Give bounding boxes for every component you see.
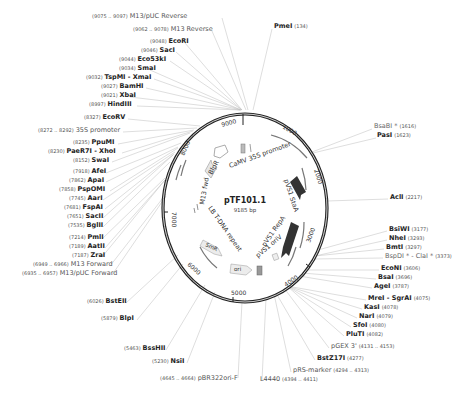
svg-text:7000: 7000	[171, 212, 178, 227]
restriction-site-label: (9032) TspMI - XmaI	[86, 73, 151, 81]
restriction-site-label: (7681) FspAI	[64, 203, 103, 211]
site-position: (6935 .. 6957)	[22, 270, 58, 276]
svg-text:1000: 1000	[282, 123, 299, 137]
site-name: PaeR7I - XhoI	[67, 147, 116, 155]
site-name: TspMI - XmaI	[105, 73, 152, 81]
site-name: M13 Reverse	[171, 25, 213, 33]
site-position: (9048)	[150, 38, 167, 44]
svg-text:CaMV 35S promoter: CaMV 35S promoter	[228, 140, 292, 170]
site-position: (3696)	[396, 274, 413, 280]
restriction-site-label: (9048) EcoRI	[150, 37, 189, 45]
restriction-site-label: (5463) BssHII	[124, 344, 166, 352]
restriction-site-label: SfoI (4080)	[353, 321, 386, 329]
site-name: BsiWI	[389, 225, 410, 233]
site-name: MreI - SgrAI	[368, 294, 412, 302]
site-position: (8997)	[89, 101, 106, 107]
site-name: FspAI	[83, 203, 103, 211]
svg-text:2000: 2000	[313, 168, 324, 185]
site-name: BssHII	[143, 344, 166, 352]
site-name: BsaBI *	[374, 122, 398, 130]
restriction-site-label: BmtI (3297)	[386, 243, 422, 251]
site-name: PluTI	[346, 330, 364, 338]
site-position: (5879)	[101, 315, 118, 321]
restriction-site-label: PmeI (134)	[274, 22, 308, 30]
feature-label: (6949 .. 6966) M13 Forward	[33, 260, 113, 268]
restriction-site-label: MreI - SgrAI (4075)	[368, 294, 430, 302]
site-name: SacI	[160, 46, 175, 54]
site-position: (4131 .. 4153)	[359, 343, 395, 349]
feature-label: (6935 .. 6957) M13/pUC Forward	[22, 269, 117, 277]
restriction-site-label: (7862) ApaI	[69, 176, 104, 184]
svg-text:BlpR: BlpR	[207, 159, 221, 176]
restriction-site-label: (8235) PpuMI	[73, 138, 115, 146]
site-name: BmtI	[386, 243, 403, 251]
site-name: EcoRI	[169, 37, 189, 45]
site-name: BspDI * - ClaI *	[385, 252, 433, 260]
site-name: AfeI	[92, 167, 107, 175]
site-name: BamHI	[120, 82, 144, 90]
site-position: (6026)	[87, 298, 104, 304]
svg-text:6000: 6000	[186, 261, 202, 277]
restriction-site-label: (8230) PaeR7I - XhoI	[48, 147, 116, 155]
site-position: (4079)	[376, 313, 393, 319]
site-name: M13/pUC Forward	[60, 269, 118, 277]
site-name: AclI	[390, 193, 404, 201]
site-name: Eco53kI	[138, 55, 167, 63]
restriction-site-label: (8327) EcoRV	[84, 113, 125, 121]
site-name: SmaI	[138, 64, 156, 72]
site-position: (3177)	[412, 226, 429, 232]
site-position: (4080)	[369, 322, 386, 328]
restriction-site-label: (7918) AfeI	[73, 167, 106, 175]
feature-label: L4440 (4394 .. 4411)	[260, 375, 318, 383]
restriction-site-label: (7745) AarI	[69, 194, 103, 202]
site-position: (7189)	[69, 243, 86, 249]
site-position: (3297)	[405, 244, 422, 250]
site-name: pRS-marker	[293, 366, 331, 374]
svg-text:3000: 3000	[304, 226, 316, 243]
site-position: (7862)	[69, 177, 86, 183]
site-position: (9034)	[119, 65, 136, 71]
restriction-site-label: BstZ17I (4277)	[317, 354, 364, 362]
site-name: PmeI	[274, 22, 292, 30]
site-name: NarI	[359, 312, 374, 320]
restriction-site-label: (7187) ZraI	[72, 251, 105, 259]
site-name: NheI	[389, 234, 406, 242]
site-name: PpuMI	[92, 138, 115, 146]
restriction-site-label: (5230) NsiI	[152, 357, 185, 365]
site-name: AatII	[88, 242, 105, 250]
restriction-site-label: NheI (3293)	[389, 234, 424, 242]
site-position: (4394 .. 4411)	[282, 376, 318, 382]
site-position: (7535)	[68, 222, 85, 228]
feature-label: pGEX 3' (4131 .. 4153)	[331, 342, 394, 350]
restriction-site-label: BsaI (3696)	[378, 273, 412, 281]
site-position: (2217)	[405, 194, 422, 200]
site-position: (7745)	[69, 195, 86, 201]
site-name: ApaI	[88, 176, 105, 184]
site-name: PmlI	[88, 233, 104, 241]
site-name: ZraI	[91, 251, 106, 259]
restriction-site-label: (9021) XbaI	[101, 91, 136, 99]
site-name: pGEX 3'	[331, 342, 357, 350]
site-name: SacII	[86, 212, 104, 220]
restriction-site-label: (9027) BamHI	[101, 82, 144, 90]
site-name: SfoI	[353, 321, 367, 329]
restriction-site-label: PluTI (4082)	[346, 330, 383, 338]
feature-label: (4645 .. 4664) pBR322ori-F	[160, 374, 238, 382]
site-name: L4440	[260, 375, 280, 383]
svg-text:M13 fwd: M13 fwd	[198, 177, 211, 206]
site-name: BstEII	[106, 297, 127, 305]
feature-label: (8272 .. 8292) 35S promoter	[38, 126, 120, 134]
feature-label: (9075 .. 9097) M13/pUC Reverse	[92, 12, 187, 20]
site-name: BlpI	[120, 314, 134, 322]
site-position: (7187)	[72, 252, 89, 258]
site-position: (8272 .. 8292)	[38, 127, 74, 133]
site-name: EcoNI	[381, 264, 402, 272]
svg-text:8000: 8000	[179, 139, 192, 156]
site-position: (4645 .. 4664)	[160, 375, 196, 381]
restriction-site-label: BsaBI * (1616)	[374, 122, 416, 130]
restriction-site-label: EcoNI (3606)	[381, 264, 420, 272]
site-name: 35S promoter	[76, 126, 121, 134]
site-position: (7918)	[73, 168, 90, 174]
site-position: (9021)	[101, 92, 118, 98]
site-position: (8327)	[84, 114, 101, 120]
